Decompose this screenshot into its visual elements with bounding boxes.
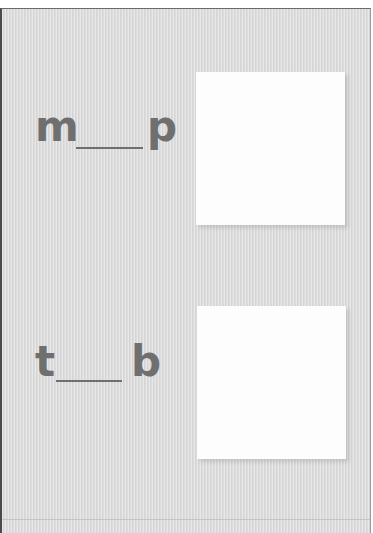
first-letter: m xyxy=(35,106,79,148)
bottom-rule xyxy=(2,519,370,520)
blank-line[interactable] xyxy=(56,380,122,382)
picture-box-1 xyxy=(196,72,345,225)
word-row-1: m p xyxy=(35,104,185,154)
last-letter: p xyxy=(147,106,177,148)
worksheet-page: m p t b xyxy=(0,8,371,533)
picture-box-2 xyxy=(197,306,346,459)
word-row-2: t b xyxy=(35,339,185,389)
last-letter: b xyxy=(131,341,161,383)
first-letter: t xyxy=(35,341,55,383)
blank-line[interactable] xyxy=(76,147,143,149)
